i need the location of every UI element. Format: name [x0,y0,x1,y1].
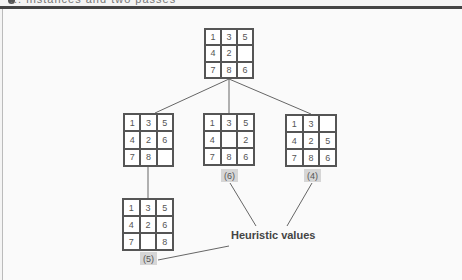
tile-empty [140,233,157,250]
tile: 4 [286,132,303,149]
puzzle-state-middle: 1 3 5 4 2 7 8 6 [203,113,255,166]
tile: 2 [140,216,157,233]
tile: 5 [237,114,254,131]
tile: 8 [221,62,237,78]
tile: 8 [303,149,320,166]
tile: 2 [221,45,237,61]
tile: 7 [123,233,140,250]
tile: 5 [237,29,253,45]
puzzle-state-left-child: 1 3 5 4 2 6 7 8 [122,198,174,251]
heuristic-value-right: (4) [304,169,321,182]
tile: 6 [157,131,173,148]
tile: 2 [237,131,254,148]
tile: 3 [221,114,238,131]
tile: 6 [237,62,253,78]
tile: 3 [221,29,237,45]
tile: 5 [156,199,173,216]
tile: 3 [140,114,156,131]
tile: 4 [205,45,221,61]
tile: 7 [205,62,221,78]
tile: 8 [156,233,173,250]
tile: 5 [157,114,173,131]
tile: 7 [124,149,140,166]
tile-empty [319,115,336,132]
tile: 1 [124,114,140,131]
tile: 7 [204,148,221,165]
tile: 8 [140,149,156,166]
puzzle-state-root: 1 3 5 4 2 7 8 6 [204,28,254,79]
tile: 3 [140,199,157,216]
heuristic-value-left-child: (5) [140,252,157,265]
tile-empty [221,131,238,148]
tile: 3 [303,115,320,132]
tile: 4 [123,216,140,233]
tile: 2 [303,132,320,149]
tile-empty [157,149,173,166]
tile: 6 [237,148,254,165]
heuristic-values-caption: Heuristic values [231,229,315,241]
tile: 7 [286,149,303,166]
tile-empty [237,45,253,61]
tile: 4 [204,131,221,148]
tile: 5 [319,132,336,149]
tile: 6 [156,216,173,233]
tile: 4 [124,131,140,148]
tile: 1 [204,114,221,131]
tile: 1 [205,29,221,45]
tile: 6 [319,149,336,166]
tile: 2 [140,131,156,148]
tile: 1 [286,115,303,132]
puzzle-state-right: 1 3 4 2 5 7 8 6 [285,114,337,167]
puzzle-state-left: 1 3 5 4 2 6 7 8 [123,113,174,167]
heuristic-value-middle: (6) [221,169,238,182]
tile: 1 [123,199,140,216]
tile: 8 [221,148,238,165]
